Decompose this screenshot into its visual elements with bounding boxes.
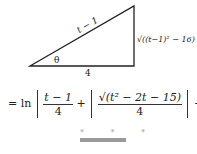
- abs-bar-right: [187, 90, 188, 118]
- frac1-denominator: 4: [43, 105, 73, 118]
- separator-stars: * * *: [80, 128, 157, 137]
- constant-suffix: + C: [194, 97, 197, 110]
- angle-label: θ: [54, 55, 59, 65]
- opposite-label: √((t−1)² − 16): [137, 35, 195, 44]
- ln-prefix: = ln: [8, 97, 31, 110]
- fraction-1: t − 14: [43, 91, 73, 118]
- fraction-2: √(t² − 2t − 15)4: [98, 91, 182, 118]
- abs-bar-inner: [91, 90, 92, 118]
- frac2-numerator: √(t² − 2t − 15): [98, 91, 182, 105]
- abs-bar-left: [37, 90, 38, 118]
- frac2-denominator: 4: [98, 105, 182, 118]
- result-equation: = ln t − 14 + √(t² − 2t − 15)4 + C: [8, 90, 197, 118]
- plus-sign: +: [76, 97, 85, 110]
- adjacent-label: 4: [85, 68, 91, 78]
- frac1-numerator: t − 1: [43, 91, 73, 105]
- separator-rule: [80, 138, 126, 142]
